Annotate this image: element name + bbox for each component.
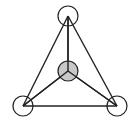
spoke-bottom-left: [23, 71, 68, 106]
nodes: [13, 6, 127, 116]
edge-top-bottom-left: [23, 16, 68, 106]
edge-top-bottom-right: [68, 16, 117, 106]
spoke-bottom-right: [68, 71, 117, 106]
tetrahedral-diagram: [0, 0, 140, 125]
